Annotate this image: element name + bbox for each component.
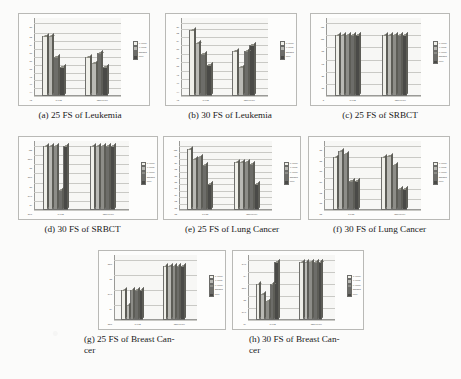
bar-side-face (312, 259, 314, 319)
bar-c-1-0 (382, 35, 387, 96)
chart-legend-h: P-valueT-valueF-valueMRMRPSO (347, 275, 361, 298)
legend-label: F-value (147, 171, 155, 175)
y-axis-ticks: 80828486889092949698100 (163, 141, 178, 210)
bar-a-1-3 (102, 67, 108, 96)
legend-label: MRMR (290, 176, 298, 180)
y-tick-label: 73 (177, 91, 179, 94)
grid-line (326, 96, 421, 97)
bar-side-face (125, 287, 127, 319)
x-tick-label: BayesNet (97, 98, 108, 102)
chart-panel-d: 10099.59998.59897.59796.5SVMBayesNetP-va… (18, 136, 158, 220)
bar-side-face (211, 62, 213, 95)
legend-label: T-value (215, 279, 223, 283)
y-tick-label: 88 (177, 49, 179, 52)
legend-label: F-value (439, 51, 447, 55)
legend-label: MRMR (215, 288, 223, 292)
y-tick-label: 98.5 (28, 177, 32, 180)
y-axis-ticks: 70737679828588919496 (165, 18, 180, 96)
chart-legend-a: P-valueT-valueMRMRPSO (133, 41, 147, 59)
grid-line (34, 96, 121, 97)
y-tick-label: 20 (322, 88, 324, 91)
y-tick-label: 88 (175, 188, 177, 191)
caption-b: (b) 30 FS of Leukemia (150, 110, 310, 121)
y-tick-label: 98 (30, 186, 32, 189)
chart-panel-f: 80828486889092SVMBayesNetP-valueT-valueF… (308, 136, 450, 220)
grid-line (179, 210, 272, 211)
legend-label: F-value (353, 284, 361, 288)
bar-side-face (396, 32, 398, 95)
caption-wrap-b: (b) 30 FS of Leukemia (150, 110, 310, 121)
y-tick-label: 94 (175, 169, 177, 172)
bar-h-0-0 (256, 284, 261, 320)
caption-wrap-h: (h) 30 FS of Breast Can-cer (245, 334, 410, 356)
caption-wrap-g: (g) 25 FS of Breast Can-cer (80, 334, 245, 356)
bar-side-face (269, 298, 271, 319)
bar-side-face (196, 156, 198, 209)
bar-side-face (354, 32, 356, 95)
legend-label: MRMR (353, 288, 361, 292)
y-axis-ticks: 020406080100120 (310, 18, 325, 96)
bar-a-0-0 (42, 36, 48, 96)
y-tick-label: 94 (177, 32, 179, 35)
bar-side-face (194, 27, 196, 95)
y-tick-label: 86 (320, 182, 322, 185)
bar-side-face (253, 161, 255, 209)
chart-legend-c: P-valueT-valueF-valueMRMRPSO (433, 41, 447, 64)
bar-side-face (258, 181, 260, 209)
bar-e-0-1 (192, 159, 197, 210)
y-tick-label: 76 (177, 83, 179, 86)
bar-side-face (47, 143, 49, 209)
bar-c-1-4 (402, 35, 407, 96)
y-tick-label: 92.5 (242, 288, 246, 291)
bar-side-face (359, 32, 361, 95)
legend-item: PSO (133, 55, 147, 60)
y-tick-label: 82 (30, 68, 32, 71)
figure-page: 70737679828588919498SVMBayesNetP-valueT-… (0, 0, 461, 379)
caption-wrap-c: (c) 25 FS of SRBCT (300, 110, 460, 121)
legend-item: PSO (433, 60, 447, 65)
legend-label: F-value (215, 284, 223, 288)
legend-label: MRMR (439, 55, 447, 59)
y-tick-label: 92 (244, 300, 246, 303)
y-tick-label: 99.5 (28, 159, 32, 162)
x-tick-label: BayesNet (174, 322, 185, 326)
chart-panel-g: 92.59291.59190.5SVMBayesNetP-valueT-valu… (98, 250, 226, 330)
caption-g-line1: (g) 25 FS of Breast Can- (80, 334, 245, 345)
legend-label: F-value (290, 171, 298, 175)
chart-panel-h: 93.59392.59291.591SVMBayesNetP-valueT-va… (232, 250, 364, 330)
bars-layer (181, 18, 268, 96)
y-tick-label: 100 (173, 150, 177, 153)
legend-item: PSO (347, 293, 361, 298)
legend-label: P-value (147, 162, 155, 166)
caption-c: (c) 25 FS of SRBCT (300, 110, 460, 121)
x-tick-label: SVM (56, 98, 62, 102)
bar-e-0-0 (187, 149, 192, 210)
y-tick-label: 40 (322, 75, 324, 78)
bar-b-1-3 (249, 45, 255, 96)
bar-g-1-0 (163, 266, 167, 320)
legend-item: PSO (433, 180, 447, 185)
caption-wrap-a: (a) 25 FS of Leukemia (0, 110, 160, 121)
bar-side-face (342, 148, 344, 209)
legend-label: P-value (439, 42, 447, 46)
plot-area-e (179, 141, 272, 210)
y-tick-label: 91 (177, 41, 179, 44)
legend-swatch (133, 55, 138, 60)
bar-side-face (171, 263, 173, 319)
bar-side-face (107, 64, 109, 95)
grid-line (324, 210, 421, 211)
bar-e-1-0 (234, 162, 239, 210)
bar-side-face (205, 51, 207, 95)
bar-side-face (166, 263, 168, 319)
legend-label: PSO (439, 60, 444, 64)
y-tick-label: 91.5 (242, 312, 246, 315)
y-tick-label: 93.5 (242, 264, 246, 267)
legend-label: MRMR (439, 176, 447, 180)
plot-area-g (114, 255, 197, 320)
legend-label: MRMR (147, 176, 155, 180)
bar-side-face (321, 259, 323, 319)
bar-g-0-3 (134, 290, 138, 320)
chart-legend-g: P-valueT-valueF-valueMRMRPSO (209, 275, 223, 298)
bars-layer (248, 255, 335, 320)
bar-side-face (401, 186, 403, 209)
